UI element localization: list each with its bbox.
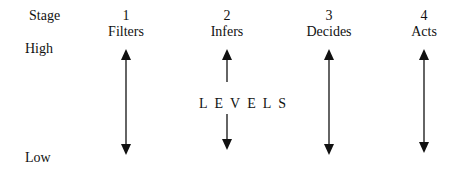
stage-2-up-arrow-icon (222, 49, 232, 82)
stage-1-double-arrow-icon (121, 49, 131, 155)
stage-2-down-arrow-icon (222, 114, 232, 150)
stage-4-double-arrow-icon (419, 49, 429, 153)
arrows-layer (0, 0, 458, 170)
stage-3-double-arrow-icon (324, 49, 334, 155)
